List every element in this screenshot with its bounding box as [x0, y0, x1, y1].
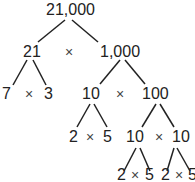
node-10: 10 [82, 86, 100, 102]
node-5: 5 [188, 167, 195, 182]
multiply-sign: × [175, 168, 183, 182]
node-2: 2 [117, 167, 126, 182]
node-2: 2 [161, 167, 170, 182]
node-3: 3 [44, 86, 53, 102]
node-21: 21 [23, 44, 41, 60]
node-10: 10 [126, 129, 144, 145]
node-7: 7 [2, 86, 11, 102]
root-node: 21,000 [46, 2, 95, 18]
multiply-sign: × [65, 45, 73, 59]
multiply-sign: × [25, 87, 33, 101]
node-2: 2 [69, 129, 78, 145]
multiply-sign: × [155, 130, 163, 144]
node-5: 5 [145, 167, 154, 182]
node-100: 100 [142, 86, 169, 102]
node-10: 10 [172, 129, 190, 145]
multiply-sign: × [86, 130, 94, 144]
node-5: 5 [103, 129, 112, 145]
multiply-sign: × [131, 168, 139, 182]
multiply-sign: × [116, 87, 124, 101]
node-1000: 1,000 [100, 44, 140, 60]
